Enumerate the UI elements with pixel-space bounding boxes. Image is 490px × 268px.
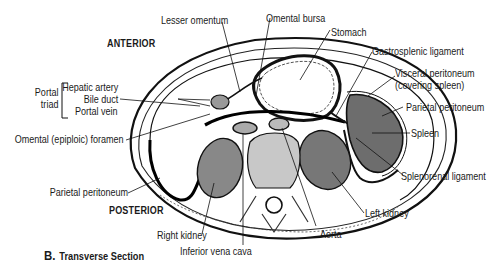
caption-letter: B. [44,248,55,263]
label-right-kidney: Right kidney [157,229,207,241]
portal-triad-structure [211,95,229,109]
label-omental-foramen: Omental (epiploic) foramen [15,133,124,145]
label-visceral-peritoneum: Visceral peritoneum [395,67,475,79]
portal-triad-label-line1: Portal [34,86,58,98]
label-splenorenal-ligament: Splenorenal ligament [401,170,486,182]
label-gastrosplenic-ligament: Gastrosplenic ligament [372,45,464,57]
label-aorta: Aorta [320,228,342,240]
inferior-vena-cava [233,122,257,134]
posterior-label: POSTERIOR [109,205,164,216]
figure-caption: B. Transverse Section [44,246,144,264]
label-parietal-peritoneum-left: Parietal peritoneum [50,186,128,198]
label-stomach: Stomach [331,26,367,38]
label-parietal-peritoneum-right: Parietal peritoneum [406,101,484,113]
label-inferior-vena-cava: Inferior vena cava [180,245,252,257]
anterior-label: ANTERIOR [107,38,155,49]
caption-text: Transverse Section [59,250,144,262]
vertebral-body [248,133,300,188]
label-spleen: Spleen [411,127,439,139]
label-bile-duct: Bile duct [83,93,118,105]
portal-triad-label-line2: triad [40,98,58,110]
label-omental-bursa: Omental bursa [266,12,325,24]
aorta [269,118,289,130]
label-hepatic-artery: Hepatic artery [62,81,118,93]
label-left-kidney: Left kidney [365,207,409,219]
spinal-cord [266,197,282,213]
label-visceral-peritoneum-sub: (covering spleen) [395,79,464,91]
label-lesser-omentum: Lesser omentum [161,14,228,26]
label-portal-vein: Portal vein [75,105,118,117]
